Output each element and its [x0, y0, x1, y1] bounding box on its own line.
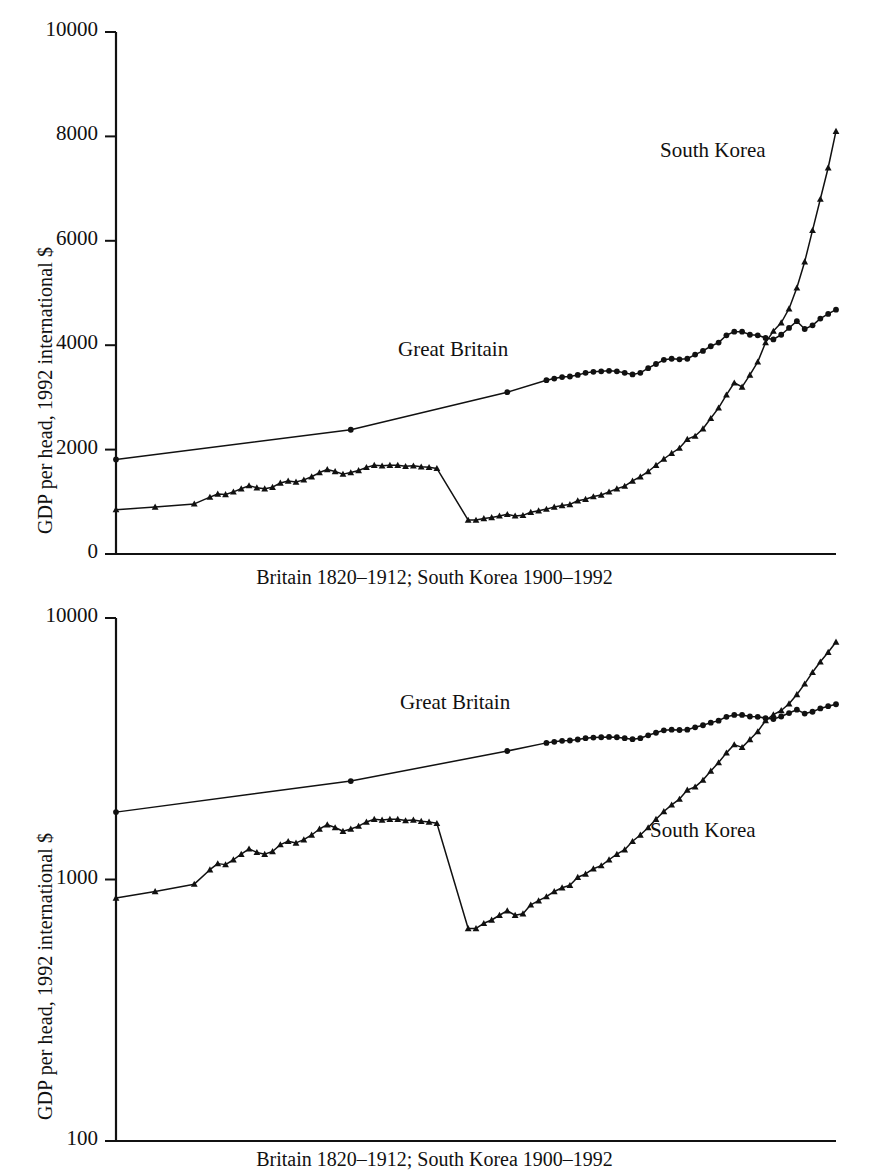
data-point-circle [598, 734, 604, 740]
data-point-triangle [535, 897, 542, 903]
series-line-south-korea [116, 131, 836, 520]
data-point-triangle [504, 511, 511, 517]
series-line-great-britain [116, 704, 836, 812]
plot-canvas-top [0, 0, 869, 600]
data-point-circle [590, 735, 596, 741]
data-point-circle [684, 356, 690, 362]
data-point-circle [559, 374, 565, 380]
data-point-circle [833, 701, 839, 707]
chart-panel-linear: GDP per head, 1992 international $ [0, 0, 869, 600]
data-point-circle [716, 718, 722, 724]
data-point-circle [653, 730, 659, 736]
data-point-circle [645, 365, 651, 371]
data-point-circle [700, 348, 706, 354]
data-point-circle [692, 724, 698, 730]
data-point-triangle [324, 466, 331, 472]
data-point-triangle [715, 404, 722, 410]
y-tick-label: 8000 [0, 121, 98, 146]
y-tick-label: 1000 [0, 865, 98, 890]
data-point-circle [700, 722, 706, 728]
data-point-circle [684, 727, 690, 733]
data-point-circle [622, 370, 628, 376]
data-point-triangle [731, 379, 738, 385]
data-point-triangle [793, 284, 800, 290]
data-point-triangle [747, 372, 754, 378]
data-point-circle [724, 714, 730, 720]
data-point-circle [802, 711, 808, 717]
data-point-triangle [613, 851, 620, 857]
data-point-triangle [246, 845, 253, 851]
data-point-triangle [269, 484, 276, 490]
data-point-circle [833, 307, 839, 313]
y-tick-label: 0 [0, 539, 98, 564]
data-point-triangle [496, 912, 503, 918]
data-point-circle [598, 368, 604, 374]
data-point-circle [778, 714, 784, 720]
data-point-circle [739, 712, 745, 718]
data-point-triangle [833, 128, 840, 134]
data-point-triangle [754, 359, 761, 365]
data-point-circle [661, 357, 667, 363]
data-point-triangle [285, 838, 292, 844]
data-point-circle [567, 374, 573, 380]
data-point-triangle [825, 164, 832, 170]
data-point-triangle [308, 473, 315, 479]
series-line-great-britain [116, 310, 836, 460]
data-point-circle [348, 427, 354, 433]
data-point-circle [606, 368, 612, 374]
data-point-circle [348, 778, 354, 784]
caption-bottom: Britain 1820–1912; South Korea 1900–1992 [0, 1148, 869, 1171]
data-point-circle [590, 369, 596, 375]
data-point-triangle [833, 639, 840, 645]
data-point-circle [708, 720, 714, 726]
data-point-triangle [527, 901, 534, 907]
data-point-circle [677, 356, 683, 362]
plot-canvas-bottom [0, 600, 869, 1166]
data-point-circle [645, 732, 651, 738]
data-point-triangle [770, 711, 777, 717]
data-point-circle [567, 738, 573, 744]
data-point-triangle [316, 826, 323, 832]
data-point-circle [630, 372, 636, 378]
data-point-circle [583, 370, 589, 376]
caption-top: Britain 1820–1912; South Korea 1900–1992 [0, 566, 869, 589]
series-line-south-korea [116, 642, 836, 928]
series-annotation-south-korea: South Korea [650, 818, 756, 843]
series-annotation-great-britain: Great Britain [400, 690, 510, 715]
data-point-circle [606, 734, 612, 740]
data-point-circle [724, 332, 730, 338]
data-point-circle [622, 735, 628, 741]
data-point-circle [794, 318, 800, 324]
data-point-circle [778, 332, 784, 338]
data-point-circle [692, 352, 698, 358]
data-point-circle [755, 714, 761, 720]
series-annotation-great-britain: Great Britain [398, 337, 508, 362]
data-point-triangle [300, 836, 307, 842]
data-point-triangle [488, 917, 495, 923]
data-point-circle [669, 727, 675, 733]
data-point-circle [113, 809, 119, 815]
y-tick-label: 2000 [0, 435, 98, 460]
data-point-triangle [543, 893, 550, 899]
data-point-circle [551, 376, 557, 382]
data-point-circle [504, 389, 510, 395]
data-point-circle [575, 372, 581, 378]
data-point-circle [559, 738, 565, 744]
data-point-circle [637, 735, 643, 741]
y-tick-label: 10000 [0, 17, 98, 42]
data-point-circle [504, 748, 510, 754]
data-point-circle [731, 329, 737, 335]
data-point-circle [786, 710, 792, 716]
y-tick-label: 6000 [0, 226, 98, 251]
series-annotation-south-korea: South Korea [660, 138, 766, 163]
data-point-triangle [324, 821, 331, 827]
data-point-circle [708, 343, 714, 349]
data-point-circle [661, 727, 667, 733]
data-point-triangle [778, 319, 785, 325]
data-point-circle [786, 325, 792, 331]
data-point-circle [677, 727, 683, 733]
data-point-circle [637, 370, 643, 376]
data-point-circle [802, 326, 808, 332]
data-point-triangle [817, 196, 824, 202]
